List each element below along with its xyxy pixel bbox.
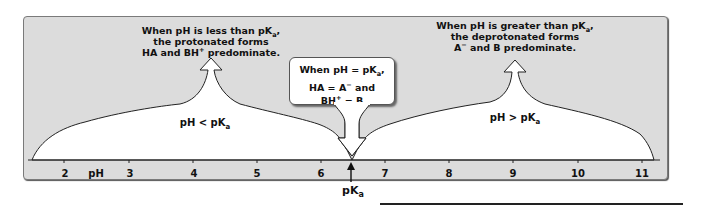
tick-label-5: 5 xyxy=(254,168,261,179)
callout-tail xyxy=(0,0,703,207)
tick-label-6: 6 xyxy=(318,168,325,179)
basic-region-label: pH > pKa xyxy=(490,112,541,126)
tick-label-8: 8 xyxy=(446,168,453,179)
tick-label-10: 10 xyxy=(571,168,585,179)
bottom-rule xyxy=(380,203,683,205)
tick-label-4: 4 xyxy=(191,168,198,179)
pka-marker-label: pKa xyxy=(342,184,364,199)
tick-label-11: 11 xyxy=(635,168,649,179)
tick-label-9: 9 xyxy=(510,168,517,179)
axis-label-ph: pH xyxy=(88,168,104,179)
diagram: When pH is less than pKa, the protonated… xyxy=(0,0,703,207)
tick-label-7: 7 xyxy=(382,168,389,179)
tick-label-3: 3 xyxy=(127,168,134,179)
tick-label-2: 2 xyxy=(62,168,69,179)
acidic-region-label: pH < pKa xyxy=(180,117,231,131)
